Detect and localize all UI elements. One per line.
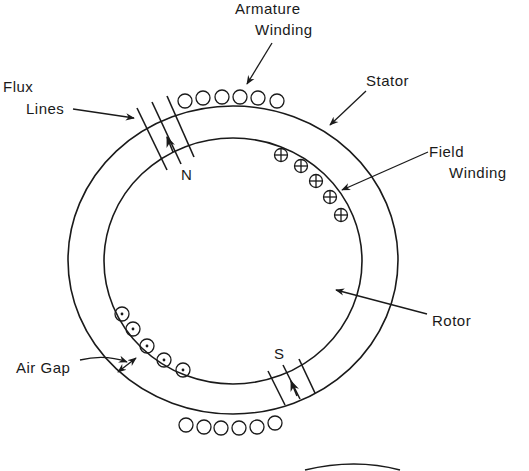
field-winding-label-line1: Field [429, 143, 464, 160]
air-gap-label: Air Gap [16, 359, 70, 376]
rotor-outline [104, 138, 362, 384]
stator-outline [68, 106, 398, 414]
flux-lines-south [268, 359, 315, 405]
leader-arrows [73, 43, 428, 372]
stator-pointer [330, 91, 366, 125]
flux-lines-label-line1: Flux [3, 78, 33, 95]
partial-arc [305, 464, 400, 470]
synchronous-machine-diagram: Armature Winding Flux Lines Stator Field… [0, 0, 529, 471]
flux-lines-label-line2: Lines [26, 100, 64, 117]
field-winding-cross [275, 149, 348, 222]
rotor-pointer [336, 290, 427, 314]
field-winding-dot [115, 307, 190, 377]
field-winding-label-line2: Winding [449, 164, 507, 181]
air-gap-pointer [80, 357, 127, 362]
armature-winding-pointer [247, 43, 272, 84]
armature-winding-label-line1: Armature [235, 0, 301, 17]
north-pole-label: N [181, 166, 192, 183]
rotor-label: Rotor [432, 312, 471, 329]
south-pole-label: S [274, 345, 284, 362]
flux-lines-north [137, 96, 194, 170]
armature-winding-bottom [179, 416, 282, 435]
field-winding-pointer [342, 152, 428, 190]
flux-lines-pointer [73, 109, 134, 118]
armature-winding-label-line2: Winding [255, 21, 313, 38]
stator-label: Stator [366, 72, 409, 89]
